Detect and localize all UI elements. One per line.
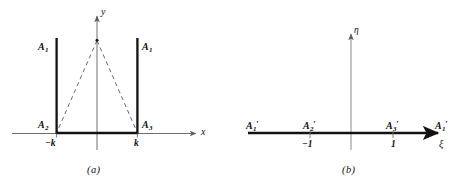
label-A1-left: A1 [38,42,48,54]
label-A2: A2 [38,120,48,132]
label-A1-left-sub: 1 [45,46,49,54]
panel-b-graphics [232,0,464,191]
tick-label-minus-one: −1 [302,140,313,150]
label-A1-prime-left: A1′ [246,120,259,133]
label-A1-right: A1 [142,42,152,54]
figure-root: A1 A1 A2 A3 −k k x y (a) [0,0,464,191]
label-A2-prime-mark: ′ [313,119,316,129]
tick-label-plus-one: 1 [391,140,396,150]
label-A3-prime: A3′ [386,120,399,133]
label-A1-prime-right: A1′ [435,120,448,133]
axis-label-x: x [201,127,205,137]
label-A3-prime-base: A [386,120,393,131]
tick-label-minus-k: −k [45,139,56,149]
dashed-right-side [97,41,138,134]
panel-b-w-plane: A1′ A2′ A3′ A1′ −1 1 ξ η (b) [232,0,464,191]
tick-label-plus-k: k [134,139,139,149]
caption-a: (a) [87,165,100,176]
label-A1-right-sub: 1 [149,46,153,54]
label-A1-prime-left-mark: ′ [256,119,259,129]
label-A1-prime-right-base: A [435,120,442,131]
axis-label-xi: ξ [439,139,443,149]
label-A3-base: A [142,119,149,130]
label-A1-right-base: A [142,41,149,52]
axis-label-y: y [101,7,105,17]
panel-a-z-plane: A1 A1 A2 A3 −k k x y (a) [0,0,232,191]
panel-a-graphics [0,0,232,191]
label-A1-prime-right-mark: ′ [445,119,448,129]
label-A2-prime-base: A [303,120,310,131]
axis-label-eta: η [354,26,359,36]
caption-b: (b) [342,165,355,176]
label-A3: A3 [142,120,152,132]
apex-point [96,39,99,42]
label-A3-prime-mark: ′ [396,119,399,129]
label-A2-base: A [38,119,45,130]
label-A2-prime: A2′ [303,120,316,133]
dashed-left-side [57,41,98,134]
label-A3-sub: 3 [149,124,153,132]
label-A1-prime-left-base: A [246,120,253,131]
label-A1-left-base: A [38,41,45,52]
label-A2-sub: 2 [45,124,49,132]
